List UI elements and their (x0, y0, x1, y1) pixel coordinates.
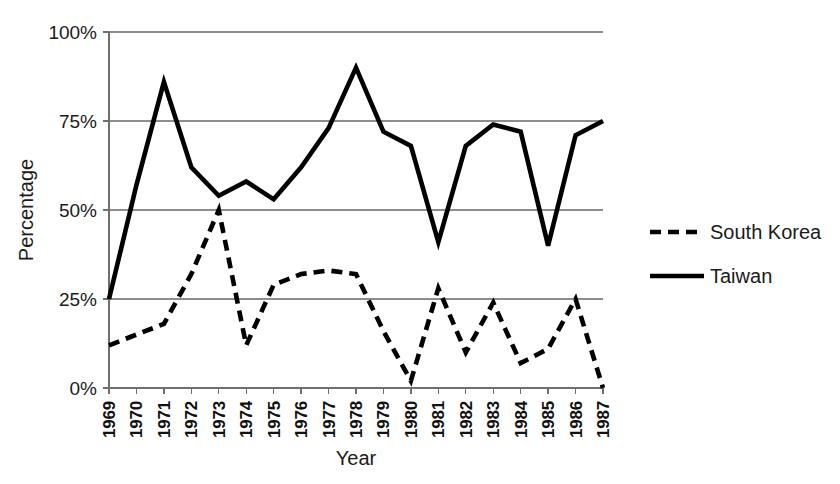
x-tick-label: 1972 (182, 401, 201, 438)
legend-label-south-korea: South Korea (710, 221, 822, 243)
x-tick-label: 1985 (539, 401, 558, 438)
x-tick-label: 1979 (374, 401, 393, 438)
x-tick-label: 1984 (512, 400, 531, 438)
legend-label-taiwan: Taiwan (710, 265, 772, 287)
y-tick-label: 25% (59, 289, 97, 310)
x-tick-label: 1974 (237, 400, 256, 438)
chart-container: 100%75%50%25%0% 196919701971197219731974… (0, 0, 840, 484)
x-tick-label: 1987 (594, 401, 613, 438)
x-tick-label: 1976 (292, 401, 311, 438)
x-tick-label: 1973 (210, 401, 229, 438)
x-tick-label: 1982 (457, 401, 476, 438)
x-tick-label: 1981 (429, 401, 448, 438)
y-tick-label: 50% (59, 200, 97, 221)
x-tick-label: 1970 (127, 401, 146, 438)
line-chart: 100%75%50%25%0% 196919701971197219731974… (0, 0, 840, 484)
x-tick-label: 1971 (155, 401, 174, 438)
x-tick-label: 1983 (484, 401, 503, 438)
x-tick-label: 1969 (100, 401, 119, 438)
y-tick-label: 100% (48, 22, 97, 43)
x-tick-label: 1975 (265, 401, 284, 438)
y-tick-label: 75% (59, 111, 97, 132)
x-tick-label: 1977 (320, 401, 339, 438)
y-axis-title: Percentage (15, 159, 37, 261)
x-tick-label: 1980 (402, 401, 421, 438)
x-axis-title: Year (336, 447, 377, 469)
x-tick-label: 1986 (567, 401, 586, 438)
y-tick-label: 0% (70, 378, 98, 399)
x-tick-label: 1978 (347, 401, 366, 438)
